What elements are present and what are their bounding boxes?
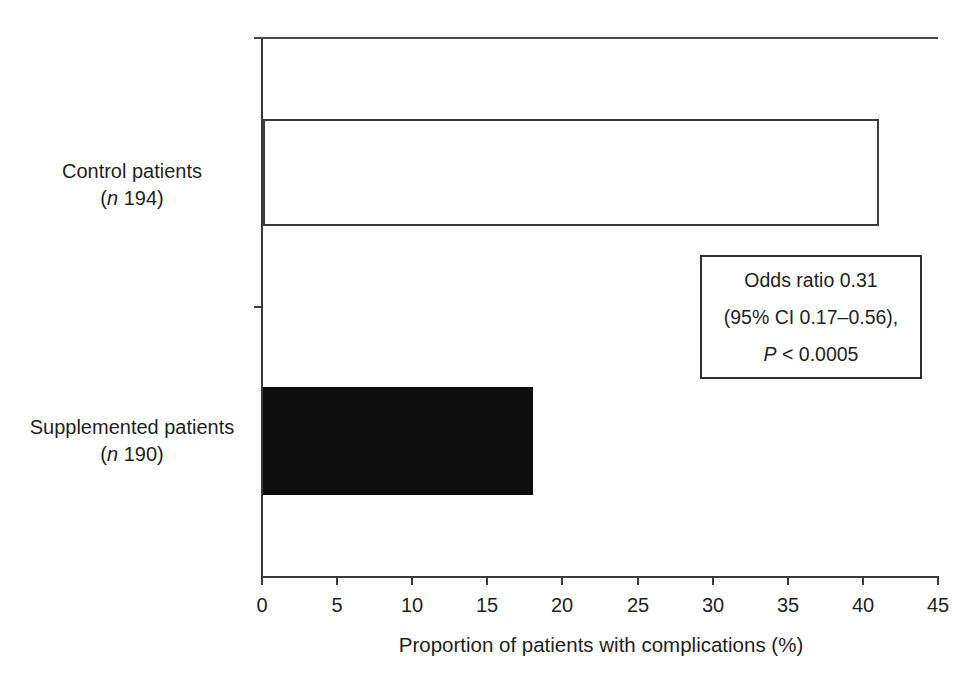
x-axis-tick-label: 20: [537, 594, 587, 617]
x-axis-tick-label: 5: [312, 594, 362, 617]
x-axis-title: Proportion of patients with complication…: [262, 633, 940, 657]
x-axis-tick-label: 40: [838, 594, 888, 617]
x-axis-tick-label: 35: [763, 594, 813, 617]
x-axis-tick-label: 30: [688, 594, 738, 617]
x-axis-tick-label: 15: [462, 594, 512, 617]
x-axis-tick-label: 0: [237, 594, 287, 617]
x-axis-tick-label: 45: [913, 594, 963, 617]
x-axis-tick-label: 25: [613, 594, 663, 617]
chart-figure: Control patients (n 194) Supplemented pa…: [0, 0, 973, 678]
x-axis-tick-label: 10: [387, 594, 437, 617]
x-axis-tick-labels: 051015202530354045: [0, 0, 973, 678]
